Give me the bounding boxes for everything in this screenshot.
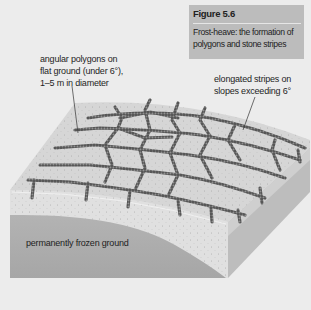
stripes-annotation-line-1: elongated stripes on xyxy=(214,73,291,85)
polygons-annotation-line-2: flat ground (under 6°), xyxy=(40,65,123,77)
figure-number: Figure 5.6 xyxy=(193,8,235,19)
polygons-annotation: angular polygons on flat ground (under 6… xyxy=(40,53,123,89)
frozen-ground-label: permanently frozen ground xyxy=(26,237,129,249)
caption-divider xyxy=(193,23,301,24)
figure-title-line-1: Frost-heave: the formation of xyxy=(193,26,305,38)
figure-title-line-2: polygons and stone stripes xyxy=(193,38,305,50)
stripes-annotation: elongated stripes on slopes exceeding 6° xyxy=(214,73,291,97)
polygons-annotation-line-1: angular polygons on xyxy=(40,53,123,65)
polygons-annotation-line-3: 1–5 m in diameter xyxy=(40,77,123,89)
figure-caption-box: Figure 5.6 Frost-heave: the formation of… xyxy=(189,5,304,59)
figure-title: Frost-heave: the formation of polygons a… xyxy=(193,26,305,50)
stripes-annotation-line-2: slopes exceeding 6° xyxy=(214,85,291,97)
